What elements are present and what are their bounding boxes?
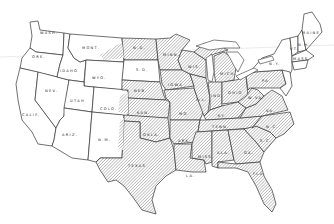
label-nh: N.H.	[298, 43, 311, 47]
label-id: IDAHO	[60, 69, 78, 73]
label-ne: NEB.	[134, 89, 148, 93]
state-nm[interactable]	[88, 112, 124, 162]
label-sc: S.C.	[260, 139, 272, 143]
label-ny: N.Y.	[269, 62, 281, 66]
label-nm: N.M.	[98, 138, 111, 142]
label-ms: MISS.	[198, 155, 214, 159]
label-me: MAINE	[302, 31, 320, 35]
label-wi: WIS.	[188, 65, 201, 69]
label-mt: MONT.	[82, 46, 100, 50]
label-vt: VT.	[290, 47, 299, 51]
state-ct-ri[interactable]	[292, 60, 308, 70]
label-ar: ARK.	[178, 139, 192, 143]
label-pa: PA.	[262, 79, 271, 83]
label-in: IND.	[211, 94, 224, 98]
label-nd: N.D.	[133, 46, 146, 50]
label-mi: MICH.	[220, 72, 237, 76]
state-wy[interactable]	[84, 60, 124, 90]
label-or: ORE.	[32, 55, 46, 59]
label-wv: W.VA.	[248, 96, 265, 100]
label-nc: N.C.	[266, 125, 279, 129]
label-tx: TEXAS	[127, 164, 146, 168]
label-ca: CALIF.	[22, 113, 40, 117]
label-wy: WYO.	[92, 76, 107, 80]
label-oh: OHIO	[228, 91, 243, 95]
label-ga: GA.	[244, 151, 254, 155]
label-ky: KY.	[218, 114, 227, 118]
label-ks: KAN.	[137, 111, 151, 115]
label-ia: IOWA	[168, 83, 183, 87]
label-tn: TENN.	[211, 125, 230, 129]
label-fl: FLA.	[253, 172, 266, 176]
label-co: COLO.	[100, 107, 118, 111]
label-ut: UTAH	[70, 99, 85, 103]
lake-michigan	[206, 54, 214, 82]
label-al: ALA.	[217, 151, 230, 155]
label-ok: OKLA.	[143, 133, 160, 137]
label-la: LA.	[186, 174, 196, 178]
us-map: WASH. ORE. CALIF. IDAHO NEV. MONT. WYO. …	[0, 0, 334, 224]
label-ma: MASS.	[293, 57, 311, 61]
state-ks[interactable]	[128, 98, 170, 118]
label-az: ARIZ.	[62, 133, 78, 137]
label-mn: MINN.	[163, 53, 180, 57]
label-sd: S.D.	[136, 68, 149, 72]
label-va: VA.	[266, 109, 276, 113]
label-il: ILL.	[196, 98, 207, 102]
label-nv: NEV.	[45, 89, 58, 93]
state-fl[interactable]	[218, 162, 276, 212]
state-wa[interactable]	[30, 21, 64, 55]
label-wa: WASH.	[40, 31, 58, 35]
label-mo: MO.	[179, 112, 190, 116]
